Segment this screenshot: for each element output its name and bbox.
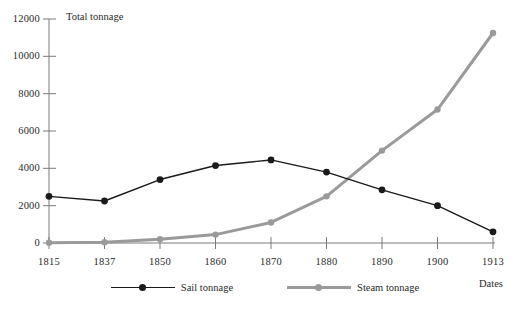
legend-label-sail-tonnage: Sail tonnage bbox=[181, 282, 233, 293]
legend-item-sail-tonnage[interactable]: Sail tonnage bbox=[111, 282, 233, 293]
data-point bbox=[212, 231, 218, 237]
legend-item-steam-tonnage[interactable]: Steam tonnage bbox=[287, 282, 419, 293]
data-point bbox=[46, 239, 52, 245]
data-point bbox=[490, 228, 497, 235]
data-point bbox=[434, 202, 441, 209]
data-point bbox=[268, 219, 274, 225]
y-axis-title: Total tonnage bbox=[66, 11, 123, 22]
legend-swatch-sail-tonnage bbox=[111, 283, 175, 293]
x-tick-label-1815: 1815 bbox=[29, 256, 69, 267]
data-point bbox=[434, 106, 440, 112]
data-point bbox=[323, 169, 330, 176]
data-point bbox=[268, 157, 275, 164]
series-line-steam-tonnage bbox=[49, 33, 493, 243]
data-point bbox=[379, 147, 385, 153]
data-point bbox=[490, 30, 496, 36]
data-point bbox=[157, 176, 164, 183]
data-point bbox=[101, 198, 108, 205]
x-tick-label-1860: 1860 bbox=[196, 256, 236, 267]
y-tick-label-10000: 10000 bbox=[0, 50, 40, 61]
y-tick-label-6000: 6000 bbox=[0, 125, 40, 136]
series-points-steam-tonnage bbox=[46, 30, 496, 246]
y-tick-label-2000: 2000 bbox=[0, 200, 40, 211]
y-tick-label-12000: 12000 bbox=[0, 13, 40, 24]
y-tick-label-8000: 8000 bbox=[0, 88, 40, 99]
x-tick-label-1837: 1837 bbox=[85, 256, 125, 267]
legend-swatch-steam-tonnage bbox=[287, 283, 351, 293]
legend-label-steam-tonnage: Steam tonnage bbox=[357, 282, 419, 293]
y-tick-label-0: 0 bbox=[0, 237, 40, 248]
data-point bbox=[157, 236, 163, 242]
x-tick-label-1850: 1850 bbox=[140, 256, 180, 267]
data-point bbox=[379, 186, 386, 193]
data-point bbox=[323, 193, 329, 199]
data-point bbox=[212, 162, 219, 169]
chart-legend: Sail tonnage Steam tonnage bbox=[0, 282, 530, 293]
x-tick-label-1890: 1890 bbox=[362, 256, 402, 267]
data-point bbox=[46, 193, 53, 200]
x-tick-label-1880: 1880 bbox=[307, 256, 347, 267]
y-tick-label-4000: 4000 bbox=[0, 162, 40, 173]
data-point bbox=[101, 239, 107, 245]
x-tick-label-1870: 1870 bbox=[251, 256, 291, 267]
line-chart: 12000 10000 8000 6000 4000 2000 0 1815 1… bbox=[0, 0, 530, 309]
x-tick-label-1900: 1900 bbox=[418, 256, 458, 267]
x-tick-label-1913: 1913 bbox=[473, 256, 513, 267]
